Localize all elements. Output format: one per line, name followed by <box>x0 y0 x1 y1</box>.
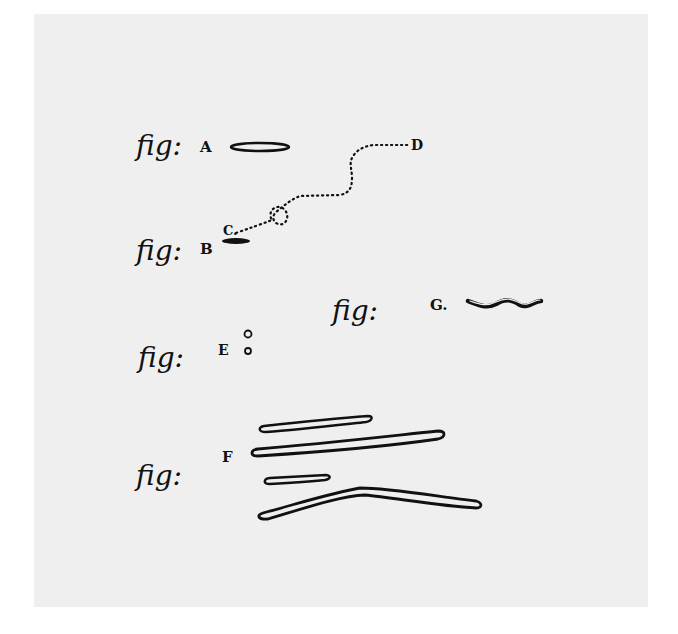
rod-bacterium-icon <box>260 416 372 432</box>
rod-bacterium-icon <box>231 143 289 151</box>
rod-bacterium-icon <box>265 475 330 484</box>
figure-g-prefix: fig: <box>330 294 378 327</box>
path-end-label: D <box>411 137 423 153</box>
figure-e-prefix: fig: <box>136 341 184 374</box>
path-start-label: C. <box>223 223 238 238</box>
figure-e-letter: E <box>218 342 229 358</box>
figure-f-letter: F <box>222 448 233 466</box>
rod-bacterium-icon <box>252 431 444 456</box>
figure-b-letter: B <box>200 240 213 258</box>
bent-rod-bacterium-icon <box>259 488 481 519</box>
figure-f-prefix: fig: <box>134 459 182 492</box>
figure-a: fig: A <box>134 129 289 162</box>
figure-e: fig: E <box>136 331 252 375</box>
small-oval-bacterium-icon <box>222 238 250 244</box>
coccus-icon <box>245 348 251 354</box>
figure-g-letter: G. <box>430 296 448 314</box>
coccus-icon <box>245 331 252 338</box>
bacteria-illustration: fig: A fig: B C. D fig: E fig: G. fig: F <box>0 0 678 634</box>
figure-a-prefix: fig: <box>134 129 182 162</box>
figure-f: fig: F <box>134 416 481 519</box>
figure-a-letter: A <box>199 138 212 156</box>
figure-g: fig: G. <box>330 294 541 327</box>
figure-b-prefix: fig: <box>134 234 182 267</box>
motion-path-dotted <box>236 145 410 233</box>
